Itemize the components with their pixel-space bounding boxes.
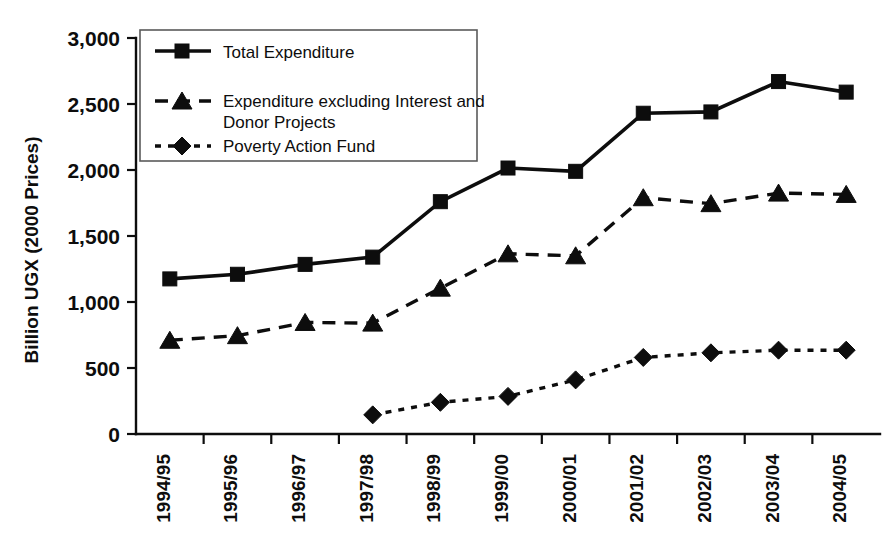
square-icon (175, 44, 189, 58)
chart-figure: Billion UGX (2000 Prices) 05001,0001,500… (0, 0, 891, 557)
y-tick-label: 3,000 (67, 27, 120, 50)
data-point-diamond-marker (634, 348, 652, 366)
data-point-square-marker (636, 106, 650, 120)
data-point-diamond-marker (567, 371, 585, 389)
data-point-square-marker (433, 195, 447, 209)
data-point-square-marker (298, 257, 312, 271)
data-point-diamond-marker (770, 341, 788, 359)
chart-legend: Total Expenditure Expenditure excluding … (140, 30, 485, 161)
y-tick-label: 2,000 (67, 159, 120, 182)
x-tick-label: 1995/96 (220, 454, 241, 523)
y-tick-label: 2,500 (67, 93, 120, 116)
line-chart-canvas: Billion UGX (2000 Prices) 05001,0001,500… (0, 0, 891, 557)
x-tick-label: 1998/99 (423, 454, 444, 523)
data-point-square-marker (569, 164, 583, 178)
x-tick-label: 1999/00 (491, 454, 512, 523)
x-axis-ticks: 1994/951995/961996/971997/981998/991999/… (153, 434, 850, 523)
x-tick-label: 2000/01 (559, 454, 580, 523)
data-point-diamond-marker (837, 341, 855, 359)
data-point-square-marker (772, 75, 786, 89)
data-point-diamond-marker (364, 406, 382, 424)
data-point-triangle-marker (566, 247, 586, 264)
legend-label-expenditure-excluding-line2: Donor Projects (223, 113, 335, 132)
legend-label-expenditure-excluding-line1: Expenditure excluding Interest and (223, 92, 485, 111)
data-point-square-marker (230, 267, 244, 281)
x-tick-label: 2004/05 (829, 454, 850, 523)
data-point-square-marker (501, 161, 515, 175)
data-point-square-marker (704, 105, 718, 119)
y-tick-label: 500 (85, 357, 120, 380)
data-point-square-marker (366, 250, 380, 264)
data-point-square-marker (839, 85, 853, 99)
y-tick-label: 1,500 (67, 225, 120, 248)
x-tick-label: 1994/95 (153, 454, 174, 523)
y-axis-ticks: 05001,0001,5002,0002,5003,000 (67, 27, 136, 446)
x-tick-label: 2003/04 (762, 454, 783, 523)
series-triangle (160, 184, 856, 348)
y-tick-label: 1,000 (67, 291, 120, 314)
series-line (170, 193, 846, 340)
data-point-diamond-marker (702, 344, 720, 362)
series-diamond (364, 341, 855, 424)
data-point-triangle-marker (633, 189, 653, 206)
legend-label-poverty-action-fund: Poverty Action Fund (223, 137, 375, 156)
x-tick-label: 2001/02 (626, 454, 647, 523)
legend-label-total-expenditure: Total Expenditure (223, 43, 354, 62)
x-tick-label: 1997/98 (356, 454, 377, 523)
y-axis-title: Billion UGX (2000 Prices) (21, 136, 42, 363)
data-point-diamond-marker (499, 387, 517, 405)
data-point-diamond-marker (431, 393, 449, 411)
y-tick-label: 0 (108, 423, 120, 446)
x-tick-label: 1996/97 (288, 454, 309, 523)
data-point-triangle-marker (430, 279, 450, 296)
x-tick-label: 2002/03 (694, 454, 715, 523)
data-point-triangle-marker (363, 314, 383, 331)
data-point-square-marker (163, 272, 177, 286)
